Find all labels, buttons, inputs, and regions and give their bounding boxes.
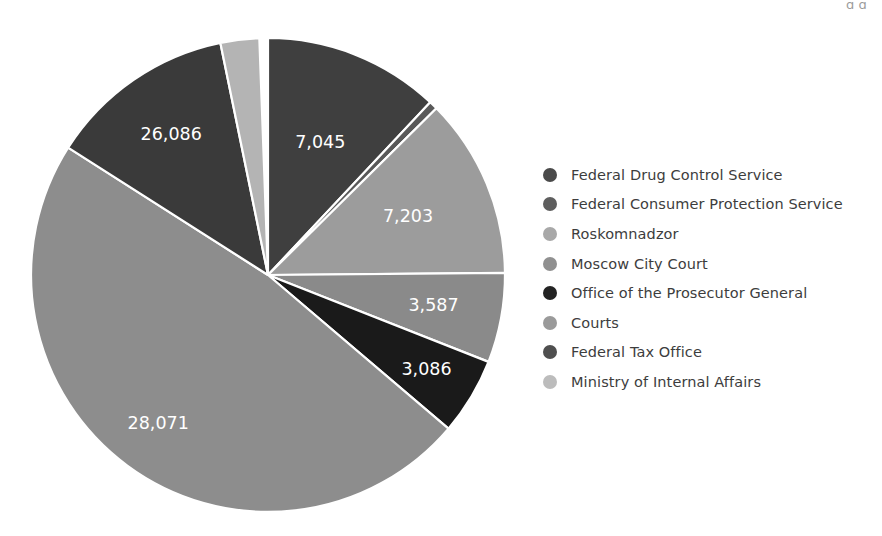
pie-slice-value-label: 7,203 xyxy=(383,206,433,226)
legend-item-label: Federal Tax Office xyxy=(571,344,702,360)
legend-item[interactable]: Roskomnadzor xyxy=(543,219,873,249)
legend-item[interactable]: Federal Tax Office xyxy=(543,338,873,368)
pie-slice-value-label: 3,587 xyxy=(408,295,458,315)
legend-item-label: Moscow City Court xyxy=(571,256,708,272)
legend-item[interactable]: Federal Consumer Protection Service xyxy=(543,190,873,220)
legend-item-label: Courts xyxy=(571,315,619,331)
cropped-corner-remnant: g g xyxy=(846,0,867,9)
legend-item[interactable]: Ministry of Internal Affairs xyxy=(543,367,873,397)
chart-legend: Federal Drug Control ServiceFederal Cons… xyxy=(543,160,873,397)
pie-slice-value-label: 26,086 xyxy=(141,124,202,144)
legend-item-label: Federal Consumer Protection Service xyxy=(571,196,843,212)
legend-swatch-icon xyxy=(543,197,557,211)
legend-swatch-icon xyxy=(543,257,557,271)
legend-swatch-icon xyxy=(543,168,557,182)
legend-swatch-icon xyxy=(543,375,557,389)
legend-swatch-icon xyxy=(543,316,557,330)
legend-item[interactable]: Moscow City Court xyxy=(543,249,873,279)
legend-item-label: Roskomnadzor xyxy=(571,226,679,242)
legend-swatch-icon xyxy=(543,286,557,300)
legend-item-label: Ministry of Internal Affairs xyxy=(571,374,761,390)
pie-plot-area: 7,0457,2033,5873,08628,07126,086 xyxy=(0,0,540,536)
pie-slices-group xyxy=(31,38,505,512)
pie-chart-figure: g g 7,0457,2033,5873,08628,07126,086 Fed… xyxy=(0,0,882,536)
pie-slice-value-label: 3,086 xyxy=(401,359,451,379)
legend-item-label: Office of the Prosecutor General xyxy=(571,285,807,301)
legend-item[interactable]: Courts xyxy=(543,308,873,338)
legend-item-label: Federal Drug Control Service xyxy=(571,167,783,183)
legend-item[interactable]: Office of the Prosecutor General xyxy=(543,278,873,308)
legend-swatch-icon xyxy=(543,345,557,359)
legend-item[interactable]: Federal Drug Control Service xyxy=(543,160,873,190)
pie-slice-value-label: 7,045 xyxy=(295,132,345,152)
legend-swatch-icon xyxy=(543,227,557,241)
pie-svg: 7,0457,2033,5873,08628,07126,086 xyxy=(0,0,540,536)
pie-slice-value-label: 28,071 xyxy=(128,413,189,433)
